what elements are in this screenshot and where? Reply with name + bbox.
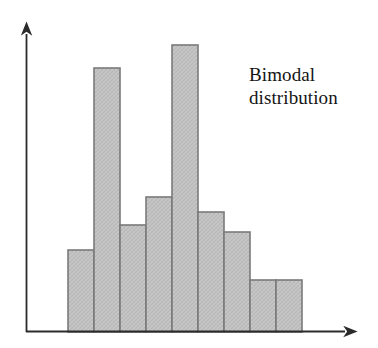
bar-1 bbox=[68, 250, 94, 332]
bar-9 bbox=[276, 280, 302, 332]
bar-8 bbox=[250, 280, 276, 332]
bar-3 bbox=[120, 225, 146, 332]
bimodal-histogram-figure: Bimodal distribution bbox=[0, 0, 378, 348]
bar-6 bbox=[198, 212, 224, 332]
bimodal-distribution-label: Bimodal distribution bbox=[249, 63, 369, 109]
bar-7 bbox=[224, 232, 250, 332]
bar-5 bbox=[172, 45, 198, 332]
histogram-plot bbox=[0, 0, 378, 348]
bar-2 bbox=[94, 68, 120, 332]
bar-4 bbox=[146, 197, 172, 332]
